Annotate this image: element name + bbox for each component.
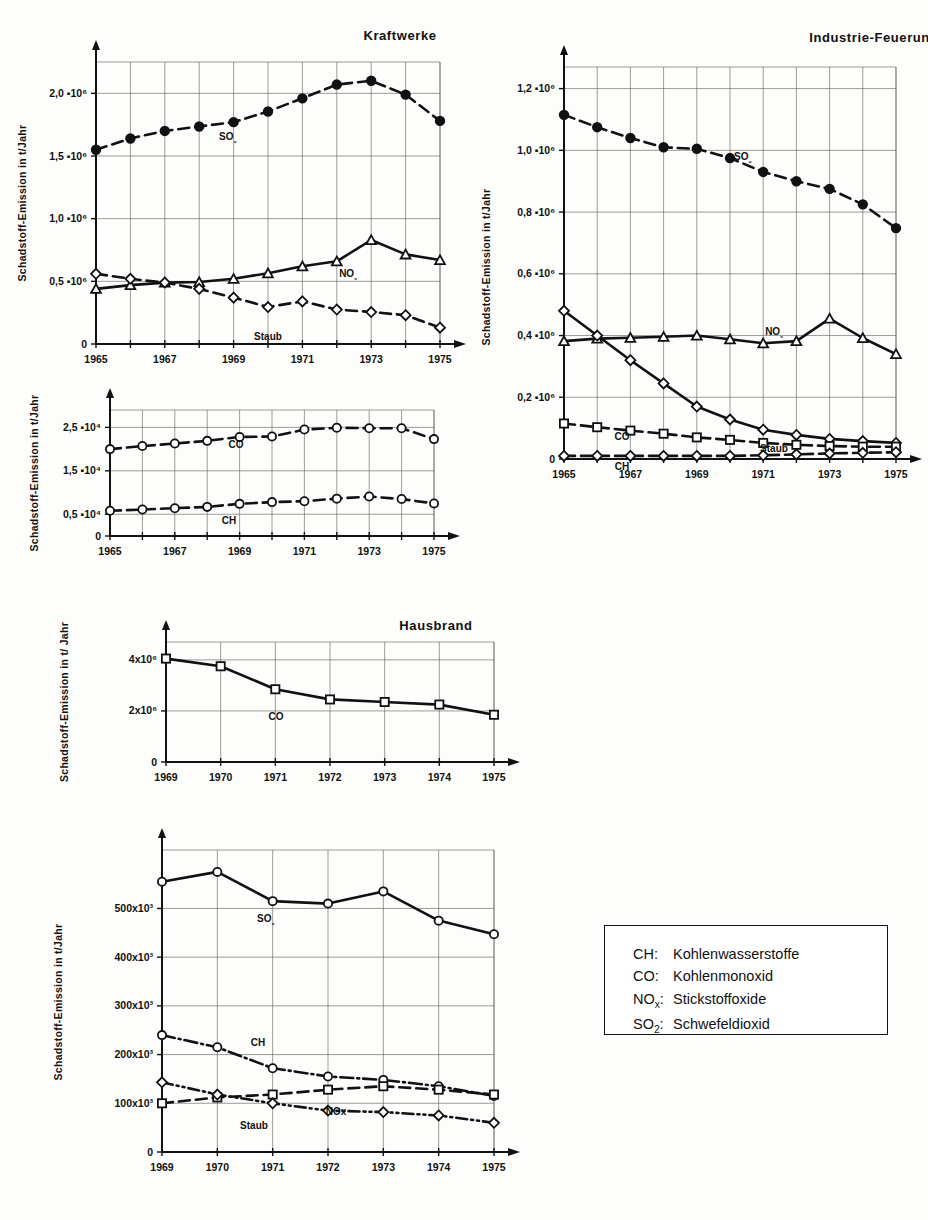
- x-tick-label: 1973: [360, 353, 384, 365]
- x-tick-label: 1974: [427, 1161, 451, 1173]
- data-point-co: [162, 654, 170, 662]
- data-point-nox: [825, 314, 835, 323]
- legend-description: Stickstoffoxide: [673, 988, 766, 1013]
- data-point-so2: [626, 134, 635, 143]
- legend-description: Schwefeldioxid: [673, 1013, 770, 1038]
- y-tick-label: 2x10⁶: [129, 704, 157, 716]
- data-point-co: [217, 662, 225, 670]
- data-point-ch: [791, 449, 801, 459]
- legend-description: Kohlenwasserstoffe: [673, 943, 799, 965]
- legend-row: SO2: Schwefeldioxid: [633, 1013, 887, 1038]
- y-tick-label: 400x10³: [114, 951, 153, 963]
- data-point-so2: [593, 123, 602, 132]
- y-tick-label: 1,2 ▪10⁶: [517, 82, 555, 94]
- data-point-nox: [229, 274, 239, 283]
- data-point-so2: [269, 897, 277, 905]
- data-point-staub: [125, 274, 135, 284]
- y-tick-label: 2,5 ▪10⁴: [63, 421, 101, 433]
- data-point-so2: [892, 224, 901, 233]
- data-point-co: [381, 698, 389, 706]
- x-tick-label: 1973: [372, 1161, 396, 1173]
- y-tick-label: 100x10³: [114, 1097, 153, 1109]
- x-tick-label: 1972: [316, 1161, 340, 1173]
- data-point-nox: [366, 235, 376, 244]
- y-tick-label: 0,6 ▪10⁶: [517, 267, 555, 279]
- data-point-so2: [92, 145, 101, 154]
- legend-row: CH: Kohlenwasserstoffe: [633, 943, 887, 965]
- data-point-staub: [401, 310, 411, 320]
- data-point-ch: [365, 492, 373, 500]
- chart-hausbrand-other: 0100x10³200x10³300x10³400x10³500x10³1969…: [36, 822, 516, 1187]
- data-point-co: [365, 424, 373, 432]
- data-point-nox: [263, 268, 273, 277]
- y-axis-label: Schadstoff-Emission in t/Jahr: [28, 395, 40, 552]
- data-point-so2: [126, 134, 135, 143]
- data-point-ch: [106, 507, 114, 515]
- data-point-so2: [560, 111, 569, 120]
- legend-key: SO2:: [633, 1013, 673, 1038]
- data-point-so2: [401, 90, 410, 99]
- y-tick-label: 0: [81, 338, 87, 350]
- data-point-so2: [333, 80, 342, 89]
- x-tick-label: 1972: [318, 771, 342, 783]
- x-tick-label: 1971: [752, 468, 776, 480]
- x-tick-label: 1975: [422, 545, 446, 557]
- y-tick-label: 0,2 ▪10⁶: [517, 391, 555, 403]
- data-point-staub: [791, 430, 801, 440]
- x-tick-label: 1975: [482, 1161, 506, 1173]
- data-point-ch: [269, 1064, 277, 1072]
- data-point-nox: [725, 335, 735, 344]
- legend-row: CO: Kohlenmonoxid: [633, 965, 887, 987]
- data-point-co: [490, 711, 498, 719]
- x-tick-label: 1969: [150, 1161, 174, 1173]
- data-point-staub: [378, 1107, 388, 1117]
- series-label: Staub: [240, 1120, 268, 1131]
- data-point-so2: [367, 77, 376, 86]
- x-tick-label: 1967: [163, 545, 187, 557]
- chart-hausbrand-other-svg: 0100x10³200x10³300x10³400x10³500x10³1969…: [36, 822, 516, 1187]
- data-point-co: [268, 432, 276, 440]
- data-point-staub: [268, 1098, 278, 1108]
- series-label: CO: [269, 711, 284, 722]
- series-label: CH: [222, 515, 236, 526]
- data-point-co: [560, 419, 568, 427]
- x-tick-label: 1975: [428, 353, 452, 365]
- legend-row: NOx: Stickstoffoxide: [633, 988, 887, 1013]
- series-label: CO: [615, 431, 630, 442]
- data-point-so2: [158, 878, 166, 886]
- x-tick-label: 1974: [428, 771, 452, 783]
- data-point-staub: [489, 1118, 499, 1128]
- data-point-ch: [398, 495, 406, 503]
- x-tick-label: 1969: [154, 771, 178, 783]
- data-point-so2: [859, 200, 868, 209]
- series-label: CO: [229, 439, 244, 450]
- series-label: Staub: [254, 331, 282, 342]
- legend-key: NOx:: [633, 988, 673, 1013]
- data-point-staub: [157, 1077, 167, 1087]
- chart-title: Kraftwerke: [363, 28, 436, 43]
- data-point-so2: [298, 94, 307, 103]
- y-tick-label: 0: [549, 453, 555, 465]
- x-tick-label: 1973: [358, 545, 382, 557]
- data-point-ch: [268, 498, 276, 506]
- data-point-co: [593, 423, 601, 431]
- x-tick-label: 1969: [685, 468, 709, 480]
- data-point-nox: [559, 336, 569, 345]
- data-point-staub: [366, 307, 376, 317]
- data-point-so2: [379, 887, 387, 895]
- data-point-co: [300, 425, 308, 433]
- y-tick-label: 2,0 ▪10⁶: [49, 87, 87, 99]
- data-point-nox: [692, 331, 702, 340]
- y-tick-label: 0: [147, 1146, 153, 1158]
- x-tick-label: 1965: [84, 353, 108, 365]
- y-tick-label: 1,0 ▪10⁶: [49, 212, 87, 224]
- data-point-nox: [379, 1082, 387, 1090]
- data-point-staub: [434, 1110, 444, 1120]
- data-point-nox: [435, 255, 445, 264]
- x-tick-label: 1969: [228, 545, 252, 557]
- chart-industrie-svg: 00,2 ▪10⁶0,4 ▪10⁶0,6 ▪10⁶0,8 ▪10⁶1,0 ▪10…: [462, 22, 928, 497]
- series-label: NOₓ: [765, 326, 783, 340]
- data-point-nox: [158, 1099, 166, 1107]
- data-point-so2: [324, 899, 332, 907]
- data-point-ch: [333, 495, 341, 503]
